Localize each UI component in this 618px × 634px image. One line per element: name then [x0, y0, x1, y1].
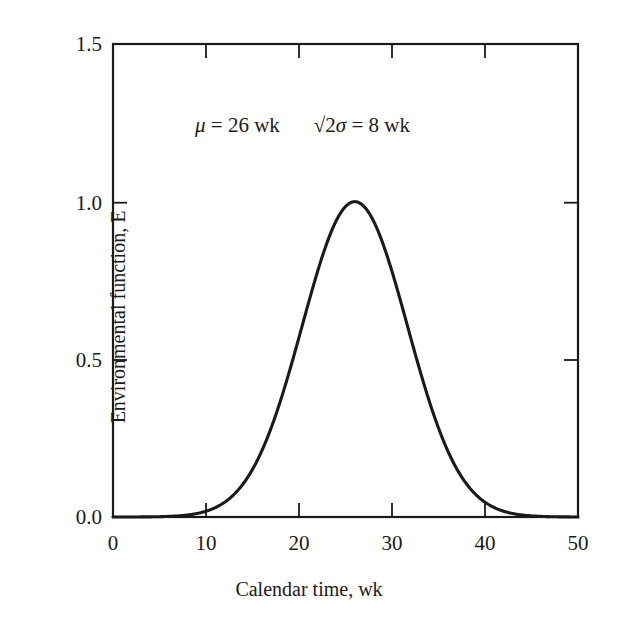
x-tick-label-50: 50	[568, 533, 589, 554]
y-tick-label-0-5: 0.5	[56, 350, 102, 371]
x-tick-label-0: 0	[108, 533, 119, 554]
environmental-function-curve	[113, 202, 578, 517]
sigma-expression: = 8 wk	[346, 113, 410, 137]
x-tick-label-30: 30	[382, 533, 403, 554]
sqrt-two: 2	[325, 113, 336, 137]
sigma-symbol: σ	[336, 113, 346, 137]
mu-expression: = 26 wk	[206, 113, 280, 137]
mu-symbol: μ	[195, 113, 206, 137]
y-axis-title: Environmental function, E	[107, 211, 130, 424]
y-tick-label-1-5: 1.5	[56, 34, 102, 55]
x-tick-label-10: 10	[196, 533, 217, 554]
y-tick-label-0-0: 0.0	[56, 507, 102, 528]
chart-figure: 1.5 1.0 0.5 0.0 0 10 20 30 40 50 Environ…	[0, 0, 618, 634]
x-axis-ticks	[206, 503, 485, 517]
chart-annotation: μ = 26 wk√2σ = 8 wk	[195, 113, 410, 138]
y-tick-label-1-0: 1.0	[56, 192, 102, 213]
y-axis-ticks-right	[564, 203, 578, 360]
x-axis-ticks-top	[206, 44, 485, 58]
x-axis-title: Calendar time, wk	[0, 578, 618, 601]
x-tick-label-40: 40	[475, 533, 496, 554]
sqrt-symbol: √	[314, 113, 326, 137]
x-tick-label-20: 20	[289, 533, 310, 554]
